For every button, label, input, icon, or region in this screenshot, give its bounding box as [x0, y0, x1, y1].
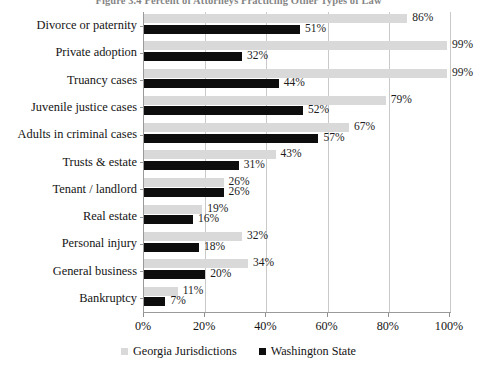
- bar-washington: [144, 243, 199, 252]
- y-axis-label-8: Personal injury: [0, 237, 137, 249]
- bar-washington: [144, 188, 224, 197]
- y-axis-label-1: Private adoption: [0, 46, 137, 58]
- legend-square-black-icon: [259, 348, 266, 355]
- bar-value-label: 31%: [244, 159, 265, 171]
- x-axis-label-20%: 20%: [193, 319, 215, 334]
- bar-georgia: [144, 259, 248, 268]
- y-axis-label-3: Juvenile justice cases: [0, 101, 137, 113]
- x-axis-label-100%: 100%: [435, 319, 463, 334]
- y-axis-label-10: Bankruptcy: [0, 292, 137, 304]
- bar-georgia: [144, 14, 407, 23]
- legend-square-gray-icon: [121, 348, 128, 355]
- legend-label: Washington State: [271, 344, 356, 359]
- bar-chart: Divorce or paternityPrivate adoptionTrua…: [0, 0, 477, 340]
- bar-group: 11%7%: [144, 285, 450, 312]
- bar-group: 26%26%: [144, 176, 450, 203]
- bar-value-label: 57%: [323, 132, 344, 144]
- bar-value-label: 67%: [354, 121, 375, 133]
- bar-georgia: [144, 232, 242, 241]
- bar-group: 86%51%: [144, 12, 450, 39]
- bar-washington: [144, 79, 279, 88]
- x-axis-tick: [265, 313, 266, 317]
- bar-value-label: 79%: [391, 94, 412, 106]
- bar-value-label: 99%: [452, 67, 473, 79]
- legend-entry: Washington State: [259, 344, 356, 359]
- bar-washington: [144, 52, 242, 61]
- bar-georgia: [144, 123, 349, 132]
- bar-value-label: 16%: [198, 213, 219, 225]
- x-axis-label-80%: 80%: [377, 319, 399, 334]
- bar-value-label: 32%: [247, 50, 268, 62]
- y-axis-label-2: Truancy cases: [0, 74, 137, 86]
- legend-entry: Georgia Jurisdictions: [121, 344, 237, 359]
- bar-group: 32%18%: [144, 230, 450, 257]
- bar-group: 67%57%: [144, 121, 450, 148]
- plot-area: 86%51%99%32%99%44%79%52%67%57%43%31%26%2…: [143, 12, 451, 313]
- x-axis-label-0%: 0%: [135, 319, 151, 334]
- bar-value-label: 7%: [170, 295, 185, 307]
- x-axis-tick: [204, 313, 205, 317]
- chart-legend: Georgia JurisdictionsWashington State: [0, 344, 477, 359]
- x-axis-tick: [143, 313, 144, 317]
- x-axis-tick: [327, 313, 328, 317]
- bar-group: 99%44%: [144, 67, 450, 94]
- bar-value-label: 20%: [210, 268, 231, 280]
- bar-group: 99%32%: [144, 39, 450, 66]
- legend-label: Georgia Jurisdictions: [133, 344, 237, 359]
- x-axis-tick: [388, 313, 389, 317]
- bar-georgia: [144, 178, 224, 187]
- bar-value-label: 99%: [452, 39, 473, 51]
- bar-group: 34%20%: [144, 257, 450, 284]
- bar-value-label: 26%: [229, 186, 250, 198]
- y-axis-label-7: Real estate: [0, 210, 137, 222]
- bar-georgia: [144, 41, 447, 50]
- bar-group: 19%16%: [144, 203, 450, 230]
- y-axis-label-6: Tenant / landlord: [0, 183, 137, 195]
- bar-washington: [144, 297, 165, 306]
- bar-washington: [144, 134, 318, 143]
- y-axis-category-labels: Divorce or paternityPrivate adoptionTrua…: [0, 12, 137, 312]
- x-axis-label-40%: 40%: [254, 319, 276, 334]
- bar-value-label: 86%: [412, 12, 433, 24]
- gridline-100: [450, 12, 451, 312]
- bar-washington: [144, 161, 239, 170]
- bar-value-label: 44%: [284, 77, 305, 89]
- bar-value-label: 43%: [281, 148, 302, 160]
- y-axis-label-0: Divorce or paternity: [0, 19, 137, 31]
- bar-value-label: 32%: [247, 230, 268, 242]
- bar-value-label: 18%: [204, 241, 225, 253]
- bar-value-label: 52%: [308, 104, 329, 116]
- bar-washington: [144, 25, 300, 34]
- bar-washington: [144, 106, 303, 115]
- x-axis: 0%20%40%60%80%100%: [143, 313, 449, 335]
- bar-washington: [144, 215, 193, 224]
- bar-georgia: [144, 205, 202, 214]
- y-axis-label-4: Adults in criminal cases: [0, 128, 137, 140]
- y-axis-label-5: Trusts & estate: [0, 156, 137, 168]
- bar-washington: [144, 270, 205, 279]
- bar-value-label: 34%: [253, 257, 274, 269]
- x-axis-tick: [449, 313, 450, 317]
- bar-group: 43%31%: [144, 148, 450, 175]
- bar-group: 79%52%: [144, 94, 450, 121]
- bar-value-label: 51%: [305, 23, 326, 35]
- bar-georgia: [144, 96, 386, 105]
- y-axis-label-9: General business: [0, 265, 137, 277]
- x-axis-label-60%: 60%: [315, 319, 337, 334]
